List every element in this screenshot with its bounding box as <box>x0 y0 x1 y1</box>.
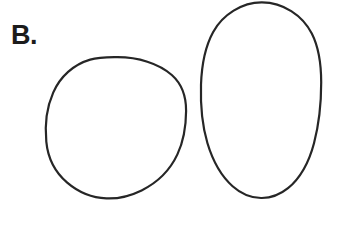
figure-panel: B. <box>0 0 340 230</box>
figure-background <box>0 0 340 230</box>
panel-label: B. <box>11 22 37 49</box>
figure-drawing-canvas <box>0 0 340 230</box>
